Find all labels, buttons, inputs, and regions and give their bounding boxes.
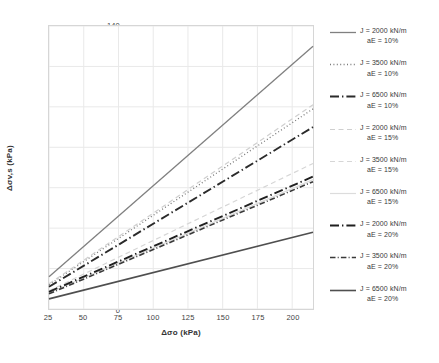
legend-line-swatch-icon [330, 91, 356, 102]
legend-label-line2: aE = 15% [360, 165, 407, 175]
legend-label-line1: J = 6500 kN/m [360, 91, 407, 98]
y-axis-title: Δσv,s (kPa) [5, 145, 14, 191]
data-series-group [49, 26, 313, 309]
legend-line-swatch-icon [330, 220, 356, 231]
chart-legend: J = 2000 kN/maE = 10%J = 3500 kN/maE = 1… [330, 26, 436, 316]
legend-item[interactable]: J = 6500 kN/maE = 20% [330, 284, 436, 305]
legend-line-swatch-icon [330, 27, 356, 38]
legend-label: J = 6500 kN/maE = 15% [360, 187, 407, 208]
legend-label-line2: aE = 20% [360, 262, 407, 272]
legend-label-line1: J = 2000 kN/m [360, 124, 407, 131]
legend-item[interactable]: J = 3500 kN/maE = 10% [330, 58, 436, 79]
legend-label: J = 3500 kN/maE = 20% [360, 251, 407, 272]
x-tick-label: 125 [181, 313, 194, 322]
data-series-line [49, 163, 313, 290]
x-tick-label: 150 [216, 313, 229, 322]
x-tick-label: 75 [114, 313, 123, 322]
data-series-line [49, 177, 313, 292]
plot-area [48, 25, 314, 310]
legend-label: J = 2000 kN/maE = 15% [360, 123, 407, 144]
legend-label-line1: J = 6500 kN/m [360, 285, 407, 292]
x-axis-title: Δσo (kPa) [161, 328, 201, 337]
legend-label-line2: aE = 20% [360, 230, 407, 240]
legend-line-swatch-icon [330, 252, 356, 263]
x-tick-label: 50 [79, 313, 88, 322]
legend-label: J = 3500 kN/maE = 15% [360, 155, 407, 176]
legend-label-line1: J = 2000 kN/m [360, 27, 407, 34]
legend-item[interactable]: J = 6500 kN/maE = 10% [330, 90, 436, 111]
legend-item[interactable]: J = 3500 kN/maE = 20% [330, 251, 436, 272]
legend-label: J = 3500 kN/maE = 10% [360, 58, 407, 79]
legend-label-line2: aE = 10% [360, 36, 407, 46]
data-series-line [49, 182, 313, 294]
data-series-line [49, 180, 313, 293]
legend-label-line2: aE = 20% [360, 294, 407, 304]
legend-label: J = 6500 kN/maE = 10% [360, 90, 407, 111]
legend-label-line2: aE = 15% [360, 133, 407, 143]
legend-item[interactable]: J = 2000 kN/maE = 15% [330, 123, 436, 144]
legend-label-line1: J = 6500 kN/m [360, 188, 407, 195]
legend-item[interactable]: J = 2000 kN/maE = 20% [330, 219, 436, 240]
legend-item[interactable]: J = 3500 kN/maE = 15% [330, 155, 436, 176]
legend-item[interactable]: J = 6500 kN/maE = 15% [330, 187, 436, 208]
data-series-line [49, 105, 313, 284]
figure-canvas: 140120100806040200 255075100125150175200… [0, 0, 439, 363]
legend-line-swatch-icon [330, 188, 356, 199]
legend-label-line1: J = 3500 kN/m [360, 156, 407, 163]
legend-label: J = 2000 kN/maE = 10% [360, 26, 407, 47]
x-tick-label: 100 [146, 313, 159, 322]
x-tick-label: 25 [44, 313, 53, 322]
x-tick-label: 175 [251, 313, 264, 322]
legend-label-line1: J = 3500 kN/m [360, 59, 407, 66]
legend-item[interactable]: J = 2000 kN/maE = 10% [330, 26, 436, 47]
legend-line-swatch-icon [330, 285, 356, 296]
legend-label-line1: J = 2000 kN/m [360, 220, 407, 227]
chart-figure: 140120100806040200 255075100125150175200… [0, 0, 439, 363]
legend-label: J = 2000 kN/maE = 20% [360, 219, 407, 240]
legend-label: J = 6500 kN/maE = 20% [360, 284, 407, 305]
legend-label-line2: aE = 10% [360, 101, 407, 111]
legend-label-line2: aE = 15% [360, 197, 407, 207]
legend-line-swatch-icon [330, 59, 356, 70]
legend-line-swatch-icon [330, 156, 356, 167]
legend-label-line2: aE = 10% [360, 69, 407, 79]
legend-label-line1: J = 3500 kN/m [360, 252, 407, 259]
data-series-line [49, 127, 313, 287]
x-tick-label: 200 [286, 313, 299, 322]
legend-line-swatch-icon [330, 124, 356, 135]
